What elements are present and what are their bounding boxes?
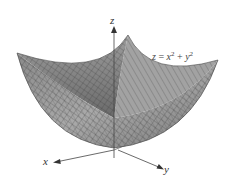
- z-axis-label: z: [110, 15, 114, 26]
- y-axis: [118, 150, 161, 168]
- x-axis: [56, 150, 114, 162]
- z-axis-arrow-icon: [111, 26, 117, 33]
- equation-plus: +: [175, 51, 186, 62]
- x-axis-label: x: [43, 156, 48, 167]
- y-axis-label: y: [164, 164, 169, 175]
- y-axis-arrow-icon: [157, 164, 165, 170]
- paraboloid-diagram: [0, 0, 231, 189]
- x-axis-arrow-icon: [53, 159, 61, 164]
- equation-term2-exp: 2: [190, 50, 194, 58]
- surface-equation: z = x2 + y2: [152, 50, 193, 62]
- equation-equals: =: [156, 51, 167, 62]
